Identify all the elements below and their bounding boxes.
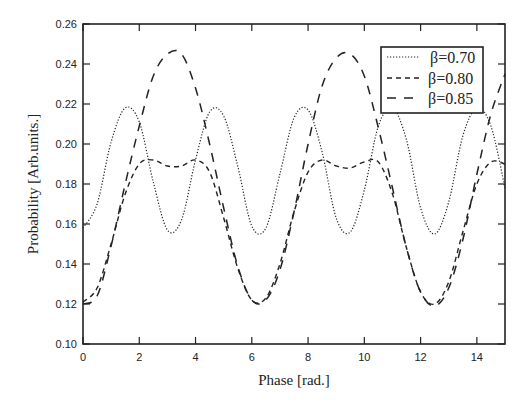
x-tick-label: 12 bbox=[414, 351, 426, 363]
y-tick-label: 0.26 bbox=[56, 18, 77, 30]
y-tick-label: 0.16 bbox=[56, 218, 77, 230]
legend-label-2: β=0.85 bbox=[428, 90, 473, 108]
y-tick-label: 0.22 bbox=[56, 98, 77, 110]
x-tick-label: 14 bbox=[471, 351, 483, 363]
y-tick-label: 0.24 bbox=[56, 58, 77, 70]
x-tick-label: 6 bbox=[249, 351, 255, 363]
y-axis-label-group: Probability [Arb.units.] bbox=[25, 114, 41, 254]
x-tick-label: 2 bbox=[136, 351, 142, 363]
y-tick-label: 0.18 bbox=[56, 178, 77, 190]
series-line-1 bbox=[83, 159, 505, 304]
y-tick-label: 0.12 bbox=[56, 298, 77, 310]
line-chart: Probability [Arb.units.] Phase [rad.] 02… bbox=[0, 0, 523, 411]
x-tick-label: 10 bbox=[358, 351, 370, 363]
legend-label-1: β=0.80 bbox=[428, 70, 473, 88]
legend: β=0.70 β=0.80 β=0.85 bbox=[381, 47, 483, 113]
y-tick-label: 0.10 bbox=[56, 338, 77, 350]
x-axis-label: Phase [rad.] bbox=[258, 372, 330, 388]
x-tick-label: 8 bbox=[305, 351, 311, 363]
x-tick-label: 4 bbox=[192, 351, 198, 363]
x-tick-label: 0 bbox=[80, 351, 86, 363]
legend-label-0: β=0.70 bbox=[430, 49, 475, 67]
y-axis-label: Probability [Arb.units.] bbox=[25, 114, 41, 254]
y-tick-label: 0.20 bbox=[56, 138, 77, 150]
y-tick-label: 0.14 bbox=[56, 258, 77, 270]
